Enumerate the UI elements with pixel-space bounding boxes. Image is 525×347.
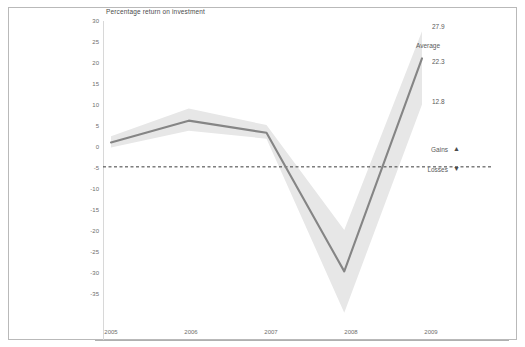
series-name-label: Average [416, 42, 440, 49]
chart-title: Percentage return on investment [106, 8, 205, 15]
triangle-down-icon: ▼ [453, 165, 460, 172]
y-tick-label: -30 [77, 270, 99, 276]
y-tick-label: 10 [77, 102, 99, 108]
series-value-label: 22.3 [432, 58, 445, 65]
y-tick-label: 20 [77, 60, 99, 66]
band-upper-value-label: 27.9 [432, 23, 445, 30]
confidence-band [111, 31, 422, 312]
chart-svg [103, 21, 491, 337]
triangle-up-icon: ▲ [453, 145, 460, 152]
y-tick-label: 15 [77, 81, 99, 87]
y-tick-label: 5 [77, 123, 99, 129]
y-tick-label: 0 [77, 144, 99, 150]
y-tick-label: -35 [77, 291, 99, 297]
y-tick-label: -15 [77, 207, 99, 213]
y-tick-label: 25 [77, 39, 99, 45]
y-tick-label: 30 [77, 18, 99, 24]
band-lower-value-label: 12.8 [432, 98, 445, 105]
plot-area [103, 21, 491, 337]
legend-losses-label: Losses [394, 166, 448, 173]
y-tick-label: -5 [77, 165, 99, 171]
x-axis-line [95, 340, 509, 341]
chart-figure: Percentage return on investment 30 25 20… [0, 0, 525, 347]
y-tick-label: -10 [77, 186, 99, 192]
y-tick-label: -25 [77, 249, 99, 255]
legend-gains-label: Gains [398, 146, 448, 153]
y-tick-label: -20 [77, 228, 99, 234]
